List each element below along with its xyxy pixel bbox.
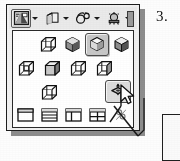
- view-toolbar[interactable]: [9, 7, 137, 29]
- toolbar-overflow-handle[interactable]: [127, 11, 134, 27]
- toolbar-item-3d-views[interactable]: [42, 8, 69, 28]
- row-viewport-configs: [13, 103, 133, 127]
- 3d-orbit-icon[interactable]: [73, 9, 93, 28]
- viewport-two-vertical-icon[interactable]: [62, 104, 86, 127]
- toolbar-item-visual-styles[interactable]: [11, 8, 38, 28]
- wireframe-cube-2-icon[interactable]: [66, 57, 92, 80]
- chevron-down-icon[interactable]: [93, 11, 100, 25]
- 3d-views-cube-icon[interactable]: [42, 9, 62, 28]
- viewport-four-equal-icon[interactable]: [85, 104, 109, 127]
- wireframe-cube-icon[interactable]: [37, 33, 61, 56]
- toolbar-item-3d-orbit[interactable]: [73, 8, 100, 28]
- step-number: 3.: [156, 8, 168, 25]
- row-wireframe-styles: [13, 56, 133, 80]
- figure-root: 3.: [0, 0, 180, 161]
- chevron-down-icon[interactable]: [62, 11, 69, 25]
- viewport-three-horizontal-icon[interactable]: [38, 104, 62, 127]
- lighting-sun-icon[interactable]: [104, 9, 124, 28]
- flat-shaded-cube-icon[interactable]: [40, 57, 66, 80]
- application-window: [6, 4, 140, 131]
- wireframe-cube-4-icon[interactable]: [37, 81, 63, 104]
- row-single-style: [13, 80, 133, 104]
- chevron-down-icon[interactable]: [31, 11, 38, 25]
- visual-styles-flyout[interactable]: [12, 30, 134, 128]
- viewport-single-icon[interactable]: [14, 104, 38, 127]
- shaded-cube-edges-icon[interactable]: [85, 33, 109, 56]
- ucs-align-plane-icon[interactable]: [105, 80, 131, 103]
- visual-style-icon[interactable]: [11, 9, 31, 28]
- adjacent-dialog-edge: [162, 114, 180, 161]
- shaded-cube-plain-icon[interactable]: [109, 33, 133, 56]
- row-shaded-styles: [13, 32, 133, 56]
- shaded-cube-dark-icon[interactable]: [61, 33, 85, 56]
- hidden-line-cube-icon[interactable]: [14, 57, 40, 80]
- wireframe-cube-3-icon[interactable]: [92, 57, 118, 80]
- named-viewports-icon[interactable]: [109, 104, 133, 127]
